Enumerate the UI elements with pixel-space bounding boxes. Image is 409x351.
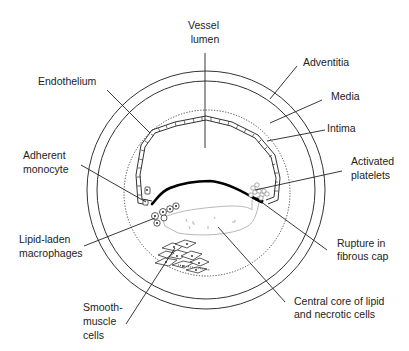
atherosclerosis-diagram: Vessel lumen Endothelium Adventitia Medi…: [0, 0, 409, 351]
leader-smooth-muscle: [126, 248, 175, 324]
label-smooth-muscle-cells: Smooth- muscle cells: [83, 301, 126, 341]
smooth-muscle-cells: [155, 240, 209, 273]
leader-intima: [267, 130, 325, 141]
label-activated-platelets: Activated platelets: [351, 155, 397, 181]
macrophage-cells: [152, 203, 180, 226]
leader-central-core: [218, 227, 285, 302]
label-rupture-in-fibrous-cap: Rupture in fibrous cap: [337, 237, 389, 262]
leader-media: [270, 100, 322, 123]
media-adventitia-boundary: [97, 81, 315, 299]
label-intima: Intima: [327, 122, 356, 134]
necrotic-debris: [186, 217, 235, 229]
leader-endothelium: [107, 90, 150, 133]
leader-adventitia: [270, 66, 297, 99]
label-vessel-lumen: Vessel lumen: [188, 19, 222, 45]
central-lipid-core: [162, 196, 260, 235]
adventitia-outer-boundary: [87, 71, 325, 309]
label-endothelium: Endothelium: [38, 75, 97, 87]
label-adventitia: Adventitia: [303, 56, 349, 68]
leader-rupture: [260, 201, 327, 250]
leader-activated-platelets: [255, 171, 342, 190]
label-media: Media: [331, 90, 360, 102]
fibrous-cap: [152, 181, 262, 204]
label-lipid-laden-macrophages: Lipid-laden macrophages: [19, 233, 83, 259]
label-adherent-monocyte: Adherent monocyte: [23, 149, 69, 175]
label-central-core: Central core of lipid and necrotic cells: [294, 295, 387, 320]
